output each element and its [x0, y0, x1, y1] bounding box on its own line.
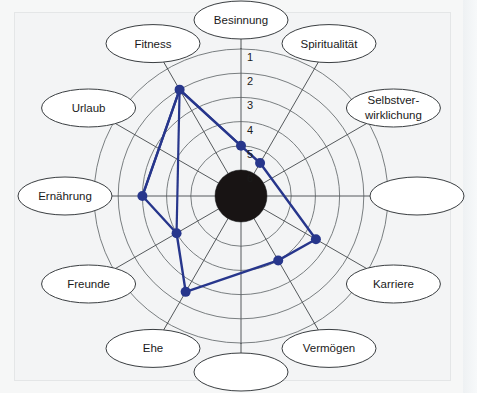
sector-urlaub[interactable]: Urlaub — [42, 89, 136, 127]
sector-vermoegen[interactable]: Vermögen — [282, 329, 376, 367]
screenshot-page: BesinnungSpiritualitätSelbstver-wirklich… — [0, 0, 477, 393]
ring-scale-labels-group: 123456 — [247, 51, 253, 184]
data-point-ehe[interactable] — [181, 287, 191, 297]
sector-fitness[interactable]: Fitness — [106, 25, 200, 63]
data-chord-fitness-freunde — [177, 90, 180, 234]
sector-vermoegen-label: Vermögen — [303, 342, 355, 354]
sector-unlabeled-bottom-shape[interactable] — [194, 353, 288, 391]
center-hub-group — [215, 170, 267, 222]
ring-scale-label-2: 2 — [247, 75, 253, 87]
sector-ehe-label: Ehe — [143, 342, 163, 354]
sector-ernaehrung[interactable]: Ernährung — [18, 177, 112, 215]
sector-fitness-label: Fitness — [134, 38, 171, 50]
sector-karriere-label: Karriere — [373, 278, 414, 290]
data-point-besinnung[interactable] — [236, 141, 246, 151]
data-point-fitness[interactable] — [175, 85, 185, 95]
sector-ernaehrung-label: Ernährung — [38, 190, 92, 202]
sector-ehe[interactable]: Ehe — [106, 329, 200, 367]
sector-selbstverwirklichung-label-line2: wirklichung — [364, 109, 422, 121]
data-point-spiritualitt[interactable] — [255, 158, 265, 168]
ring-scale-label-4: 4 — [247, 124, 253, 136]
sector-karriere[interactable]: Karriere — [346, 265, 440, 303]
data-point-ernhrung[interactable] — [137, 191, 147, 201]
ring-scale-label-5: 5 — [247, 148, 253, 160]
data-point-karriere[interactable] — [311, 234, 321, 244]
sector-urlaub-label: Urlaub — [72, 102, 106, 114]
center-hub — [215, 170, 267, 222]
sector-selbstverwirklichung[interactable]: Selbstver-wirklichung — [346, 89, 440, 127]
ring-scale-label-1: 1 — [247, 51, 253, 63]
ring-scale-label-3: 3 — [247, 99, 253, 111]
data-point-freunde[interactable] — [172, 228, 182, 238]
ring-scale-label-6: 6 — [247, 172, 253, 184]
sector-unlabeled-right-shape[interactable] — [370, 177, 464, 215]
sector-unlabeled-bottom[interactable] — [194, 353, 288, 391]
data-point-vermgen[interactable] — [273, 255, 283, 265]
sector-selbstverwirklichung-label-line1: Selbstver- — [368, 94, 420, 106]
sector-spiritualitaet-label: Spiritualität — [301, 38, 359, 50]
sector-besinnung-label: Besinnung — [214, 14, 268, 26]
sector-spiritualitaet[interactable]: Spiritualität — [282, 25, 376, 63]
sector-unlabeled-right[interactable] — [370, 177, 464, 215]
sector-freunde[interactable]: Freunde — [42, 265, 136, 303]
wheel-of-life-chart: BesinnungSpiritualitätSelbstver-wirklich… — [0, 0, 477, 393]
sector-besinnung[interactable]: Besinnung — [194, 1, 288, 39]
sector-freunde-label: Freunde — [67, 278, 110, 290]
